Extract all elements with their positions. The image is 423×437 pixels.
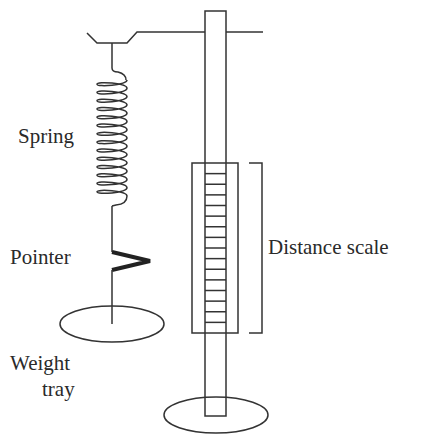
label-distance-scale: Distance scale [268,235,389,259]
label-pointer: Pointer [10,245,71,269]
distance-scale-ticks [205,174,226,323]
cross-arm [87,32,205,43]
label-spring: Spring [18,124,75,148]
label-tray: tray [42,377,75,401]
stand-rod [205,11,226,416]
stand-base [164,397,268,433]
spring-apparatus-diagram: Spring Pointer Weight tray Distance scal… [0,0,423,437]
spring [97,43,127,206]
label-weight: Weight [10,351,70,375]
distance-scale-bracket [249,163,262,333]
